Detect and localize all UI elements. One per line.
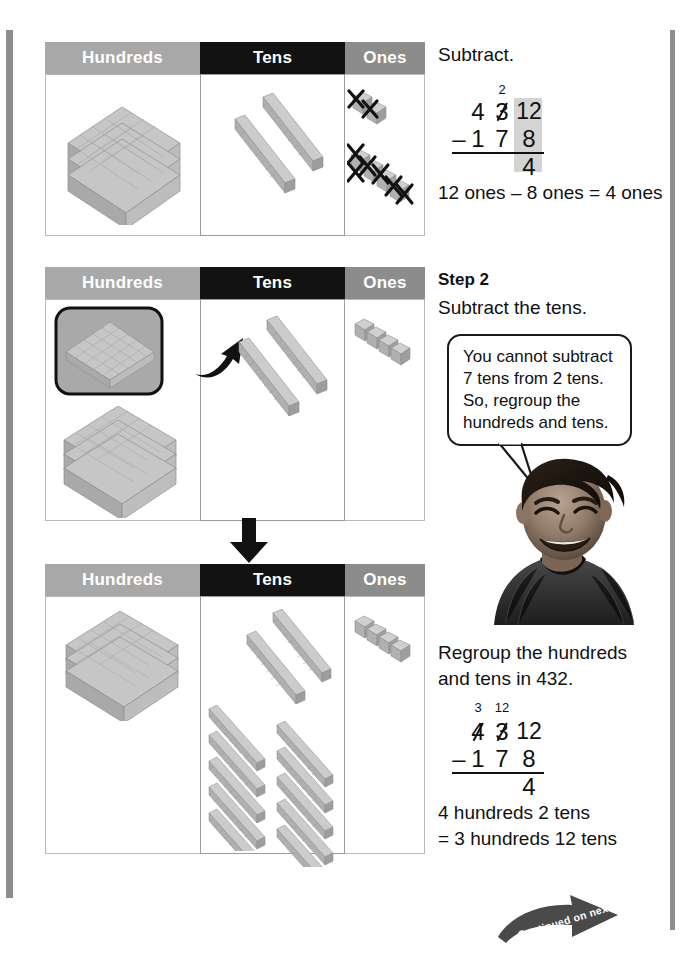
column-header-tens: Tens: [200, 267, 345, 299]
tens-rods-regrouped-left-icon: [203, 705, 281, 851]
callout-box: You cannot subtract 7 tens from 2 tens. …: [447, 334, 632, 446]
cell-tens: [200, 299, 345, 521]
subtraction-problem-step3: 3 12 4 3 12 – 1 7 8 4: [452, 700, 582, 796]
column-header-tens: Tens: [200, 564, 345, 596]
column-header-ones: Ones: [345, 42, 425, 74]
cell-hundreds: [45, 74, 200, 236]
left-margin-rule: [6, 30, 13, 898]
hundreds-flat-stack-icon: [60, 89, 188, 225]
step3-instruction-line-1: Regroup the hundreds: [438, 640, 627, 666]
column-header-ones: Ones: [345, 267, 425, 299]
cell-ones: [345, 299, 425, 521]
step1-sentence: 12 ones – 8 ones = 4 ones: [438, 180, 662, 206]
tens-rods-icon: [227, 314, 337, 424]
subtraction-problem-step1: 2 4 3 12 – 1 7 8 4: [452, 82, 572, 172]
step1-instruction: Subtract.: [438, 44, 514, 66]
step2-instruction: Subtract the tens.: [438, 297, 587, 319]
cell-ones: [345, 596, 425, 854]
cell-hundreds: [45, 596, 200, 854]
place-value-table-step1: Hundreds Tens Ones: [45, 42, 425, 236]
regroup-digit-tens: 2: [490, 82, 514, 97]
callout-line-2: 7 tens from 2 tens.: [463, 368, 618, 390]
worksheet-page: Hundreds Tens Ones: [0, 0, 693, 958]
table-body-row: [45, 74, 425, 236]
difference-ones: 4: [516, 153, 542, 180]
table-body-row: [45, 299, 425, 521]
subtrahend-hundreds: 1: [466, 125, 490, 152]
minuend-hundreds: 4: [466, 98, 490, 125]
cell-tens: [200, 74, 345, 236]
tens-rods-icon: [223, 91, 333, 203]
subtrahend-tens: 7: [490, 745, 514, 772]
column-header-hundreds: Hundreds: [45, 42, 200, 74]
ones-cubes-crossed-icon: [347, 85, 423, 225]
step2-label: Step 2: [438, 270, 489, 290]
cell-ones: [345, 74, 425, 236]
subtrahend-hundreds: 1: [466, 745, 490, 772]
table-header-row: Hundreds Tens Ones: [45, 42, 425, 74]
step3-instruction-line-2: and tens in 432.: [438, 666, 573, 692]
place-value-table-step3: Hundreds Tens Ones: [45, 564, 425, 854]
callout-line-1: You cannot subtract: [463, 346, 618, 368]
continued-banner: Continued on next page: [492, 893, 662, 955]
column-header-ones: Ones: [345, 564, 425, 596]
column-header-hundreds: Hundreds: [45, 267, 200, 299]
student-photo: [478, 455, 646, 625]
difference-ones: 4: [516, 773, 542, 800]
cell-hundreds: [45, 299, 200, 521]
ones-cubes-icon: [353, 611, 419, 671]
callout-bubble: You cannot subtract 7 tens from 2 tens. …: [447, 334, 632, 446]
regroup-digit-tens: 12: [490, 700, 514, 715]
hundreds-flat-stack-icon: [56, 406, 184, 518]
highlighted-hundred-flat-icon: [54, 306, 166, 398]
tens-rods-regrouped-right-icon: [271, 721, 349, 867]
cell-tens: [200, 596, 345, 854]
table-header-row: Hundreds Tens Ones: [45, 564, 425, 596]
hundreds-flat-stack-icon: [58, 611, 186, 721]
subtrahend-ones: 8: [516, 125, 542, 152]
place-value-table-step2: Hundreds Tens Ones: [45, 267, 425, 521]
step3-sentence-line-2: = 3 hundreds 12 tens: [438, 826, 617, 852]
table-body-row: [45, 596, 425, 854]
tens-rods-original-icon: [235, 609, 341, 705]
subtrahend-tens: 7: [490, 125, 514, 152]
minuend-ones: 12: [516, 98, 542, 125]
callout-line-3: So, regroup the: [463, 390, 618, 412]
regroup-digit-hundreds: 3: [466, 700, 490, 715]
table-header-row: Hundreds Tens Ones: [45, 267, 425, 299]
right-margin-rule: [670, 30, 675, 930]
callout-line-4: hundreds and tens.: [463, 412, 618, 434]
subtrahend-ones: 8: [516, 745, 542, 772]
down-arrow-icon: [228, 518, 270, 564]
column-header-hundreds: Hundreds: [45, 564, 200, 596]
column-header-tens: Tens: [200, 42, 345, 74]
minuend-ones: 12: [516, 718, 542, 745]
step3-sentence-line-1: 4 hundreds 2 tens: [438, 800, 590, 826]
ones-cubes-icon: [353, 314, 419, 374]
